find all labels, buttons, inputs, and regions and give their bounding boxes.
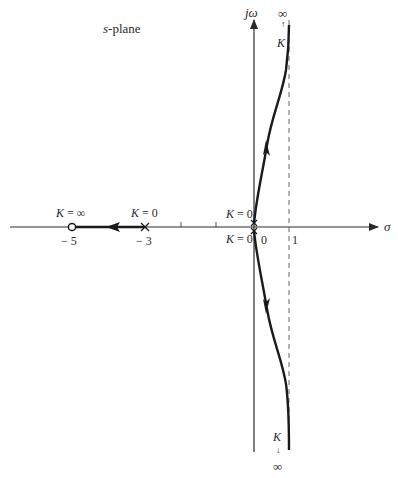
origin-upper-k-label: K = 0 (226, 208, 253, 220)
origin-lower-k-label: K = 0 (226, 233, 253, 245)
bottom-k-label: K (273, 431, 281, 443)
bottom-down-arrow-icon: ↓ (276, 446, 281, 455)
real-axis-label: σ (384, 220, 390, 233)
lower-branch (254, 230, 289, 450)
plane-label: s-plane (103, 22, 141, 35)
tick-label-minus5: − 5 (61, 235, 77, 247)
top-k-label: K (277, 37, 285, 49)
root-locus-figure (0, 0, 398, 478)
bottom-infinity-label: ∞ (273, 460, 282, 473)
zero-k-infinity-label: KK = ∞ = ∞ (56, 207, 85, 219)
zero-minus5 (68, 223, 75, 230)
pole-k-zero-label: K = 0 (131, 207, 158, 219)
top-up-arrow-icon: ↑ (281, 20, 286, 29)
tick-label-one: 1 (292, 234, 298, 246)
upper-branch (254, 25, 289, 224)
tick-label-origin: 0 (261, 234, 267, 246)
imag-axis-label: jω (245, 6, 258, 19)
tick-label-minus3: − 3 (136, 235, 152, 247)
